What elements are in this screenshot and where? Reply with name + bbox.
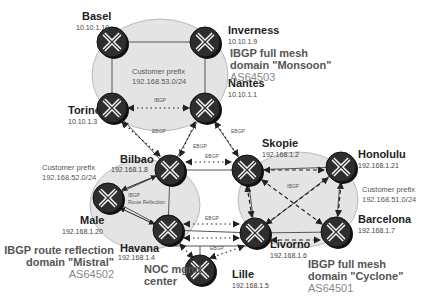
router-icon-skopie: [232, 155, 264, 187]
router-ip-barcelona: 192.168.1.7: [358, 227, 395, 234]
router-ip-torino: 10.10.1.3: [68, 118, 97, 125]
router-name-barcelona: Barcelona: [358, 213, 411, 225]
router-name-torino: Torino: [68, 104, 101, 116]
ebgp-label-nantes-skopie: EBGP: [231, 128, 245, 134]
noc-label-line1: NOC mgmt: [144, 263, 201, 275]
ebgp-label-torino-bilbao: EBGP: [152, 128, 166, 134]
router-ip-inverness: 10.10.1.9: [228, 38, 257, 45]
router-name-bilbao: Bilbao: [120, 153, 154, 165]
mistral-prefix-value: 192.168.52.0/24: [42, 173, 96, 183]
ebgp-label-havana-livorno: EBGP: [205, 215, 219, 221]
router-ip-bilbao: 192.168.1.8: [111, 166, 148, 173]
router-name-livorno: Livorno: [270, 238, 310, 250]
monsoon-prefix-label: Customer prefix: [132, 67, 185, 77]
cyclone-domain-line2: domain "Cyclone": [308, 270, 403, 282]
monsoon-prefix-value: 192.168.53.0/24: [132, 77, 186, 87]
mistral-prefix-label: Customer prefix: [42, 163, 95, 173]
cyclone-ibgp-label: IBGP: [287, 183, 299, 189]
router-ip-honolulu: 192.168.1.21: [358, 162, 399, 169]
mistral-ibgp-label: IBGP: [128, 192, 140, 198]
mistral-asn: AS64502: [69, 268, 114, 280]
ebgp-label-lille: EBGP: [210, 245, 224, 251]
router-ip-lille: 192.168.1.5: [232, 282, 269, 289]
noc-label-line2: center: [144, 275, 177, 287]
ebgp-label-bilbao-skopie: EBGP: [205, 153, 219, 159]
monsoon-domain-line2: domain "Monsoon": [230, 59, 331, 71]
ebgp-label-nantes-bilbao: EBGP: [193, 143, 207, 149]
router-ip-livorno: 192.168.1.6: [270, 252, 307, 259]
cyclone-prefix-value: 192.168.51.0/24: [362, 195, 416, 205]
mistral-domain-line2: domain "Mistral": [26, 256, 114, 268]
cyclone-domain-line1: IBGP full mesh: [308, 258, 386, 270]
cyclone-prefix-label: Customer prefix: [362, 185, 415, 195]
cyclone-asn: AS64501: [308, 282, 353, 294]
monsoon-domain-line1: IBGP full mesh: [230, 47, 308, 59]
router-ip-skopie: 192.168.1.2: [262, 151, 299, 158]
router-name-male: Male: [80, 214, 104, 226]
monsoon-ibgp-label: IBGP: [154, 97, 166, 103]
router-name-honolulu: Honolulu: [358, 148, 406, 160]
router-name-inverness: Inverness: [228, 24, 279, 36]
monsoon-asn: AS64503: [230, 71, 275, 83]
router-ip-nantes: 10.10.1.1: [228, 91, 257, 98]
router-name-skopie: Skopie: [262, 137, 298, 149]
router-name-basel: Basel: [82, 10, 111, 22]
router-name-lille: Lille: [232, 268, 254, 280]
mistral-rr-label: Route Reflection: [128, 199, 165, 205]
router-ip-male: 192.168.1.20: [62, 228, 103, 235]
router-ip-havana: 192.168.1.4: [118, 254, 155, 261]
router-ip-basel: 10.10.1.10: [76, 24, 109, 31]
router-name-havana: Havana: [120, 242, 159, 254]
mistral-domain-line1: IBGP route reflection: [4, 244, 114, 256]
